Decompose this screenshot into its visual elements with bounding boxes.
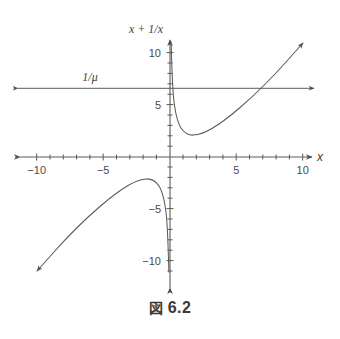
y-tick-label-minus5: −5: [148, 203, 161, 215]
y-axis: 10 5 −5 −10 x + 1/x: [128, 22, 174, 288]
plot-canvas: −10 −5 5 10 x: [0, 0, 340, 339]
x-tick-label-minus5: −5: [97, 164, 110, 176]
y-tick-label-10: 10: [149, 47, 161, 59]
figure-caption: 図 6.2: [0, 297, 340, 317]
y-tick-label-5: 5: [155, 99, 161, 111]
y-tick-label-minus10: −10: [142, 255, 161, 267]
x-tick-label-minus10: −10: [27, 164, 46, 176]
x-tick-label-5: 5: [233, 164, 239, 176]
figure-page: −10 −5 5 10 x: [0, 0, 340, 339]
caption-number: 6.2: [168, 299, 192, 316]
x-tick-label-10: 10: [297, 164, 309, 176]
reciprocal-mu-label: 1/μ: [82, 70, 97, 84]
x-axis: −10 −5 5 10 x: [20, 150, 324, 176]
y-axis-label: x + 1/x: [128, 22, 164, 36]
caption-symbol: 図: [149, 300, 164, 316]
x-axis-label: x: [316, 150, 324, 164]
